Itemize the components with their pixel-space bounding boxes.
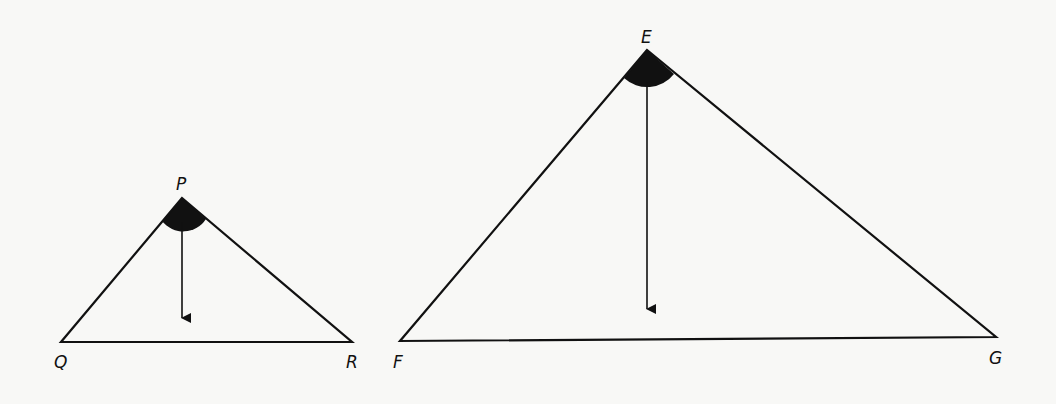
- triangle-efg-outline: [400, 50, 996, 341]
- vertex-label-e: E: [641, 27, 652, 47]
- similar-triangles-diagram: P Q R E F G: [0, 0, 1056, 404]
- triangle-pqr: P Q R: [54, 174, 358, 372]
- diagram-canvas: P Q R E F G: [0, 0, 1056, 404]
- vertex-label-p: P: [176, 174, 187, 194]
- vertex-label-q: Q: [54, 352, 67, 372]
- vertex-label-r: R: [346, 352, 358, 372]
- vertex-label-f: F: [393, 352, 403, 372]
- triangle-efg: E F G: [393, 27, 1002, 372]
- triangle-pqr-outline: [61, 198, 352, 342]
- vertex-label-g: G: [989, 348, 1002, 368]
